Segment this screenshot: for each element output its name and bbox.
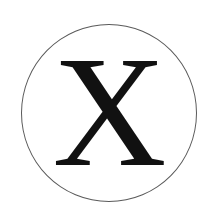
letter-x-glyph: X — [0, 0, 212, 222]
